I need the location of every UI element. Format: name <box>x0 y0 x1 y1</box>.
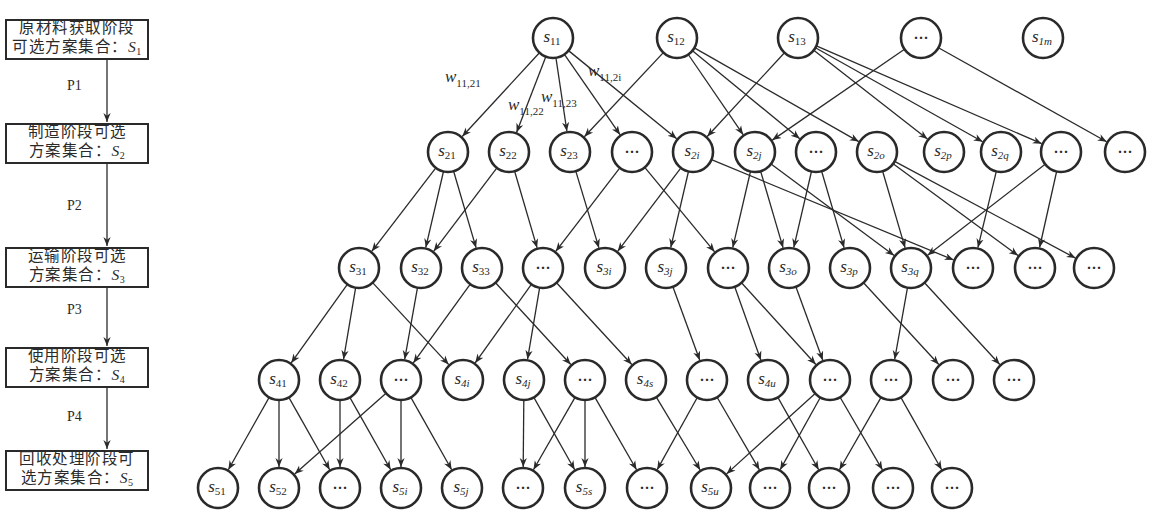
ellipsis-icon: ··· <box>1117 144 1132 160</box>
edge-L3d2-to-s4u <box>735 287 761 360</box>
edge-s12-to-s2j <box>688 55 743 135</box>
ellipsis-icon: ··· <box>913 30 928 46</box>
node-ellipsis-layer5: ··· <box>932 468 972 508</box>
node-ellipsis-layer2: ··· <box>1105 132 1145 172</box>
edge-L3d1-to-s4s <box>557 283 632 365</box>
node-ellipsis-layer4: ··· <box>871 360 911 400</box>
edge-s21-to-s32 <box>426 171 444 247</box>
edge-s3q-to-L4d5 <box>895 288 908 360</box>
ellipsis-icon: ··· <box>762 480 777 496</box>
edge-s11-to-s21 <box>462 53 539 137</box>
node-ellipsis-layer2: ··· <box>612 132 652 172</box>
node-s13: s13 <box>778 18 818 58</box>
node-ellipsis-layer4: ··· <box>381 360 421 400</box>
node-ellipsis-layer5: ··· <box>750 468 790 508</box>
edge-s3q-to-L4d7 <box>925 283 1000 365</box>
edge-L3d1-to-s4i <box>475 284 531 363</box>
edge-s2i-to-s3j <box>671 171 689 247</box>
ellipsis-icon: ··· <box>332 480 347 496</box>
ellipsis-icon: ··· <box>822 372 837 388</box>
ellipsis-icon: ··· <box>515 480 530 496</box>
node-s11: s11 <box>533 18 573 58</box>
edge-L2d1-to-L3d1 <box>556 168 620 251</box>
edge-s13-to-L2d3 <box>816 46 1041 144</box>
node-s42: s42 <box>320 360 360 400</box>
node-ellipsis-layer4: ··· <box>565 360 605 400</box>
node-s5i: s5i <box>381 468 421 508</box>
node-s3p: s3p <box>830 248 870 288</box>
ellipsis-icon: ··· <box>535 260 550 276</box>
ellipsis-icon: ··· <box>393 372 408 388</box>
edge-L4d5-to-L5d7 <box>901 397 942 469</box>
node-s22: s22 <box>489 132 529 172</box>
ellipsis-icon: ··· <box>808 144 823 160</box>
edge-L3d1-to-s4j <box>528 288 540 360</box>
edge-s2j-to-s3o <box>761 171 783 248</box>
edge-s41-to-L5d1 <box>289 397 330 469</box>
edge-weight-labels: w11,21w11,22w11,23w11,2i <box>443 61 634 118</box>
node-ellipsis-layer5: ··· <box>320 468 360 508</box>
edge-L4d1-to-s5j <box>411 397 452 469</box>
edge-s2o-to-s3q <box>883 171 905 248</box>
edge-s2i-to-s3i <box>618 168 681 251</box>
edge-L2d3-to-L3d4 <box>1040 172 1057 248</box>
edge-L4d4-to-L5d4 <box>780 397 820 469</box>
node-ellipsis-layer5: ··· <box>503 468 543 508</box>
node-s2p: s2p <box>924 132 964 172</box>
node-s5j: s5j <box>442 468 482 508</box>
node-ellipsis-layer5: ··· <box>627 468 667 508</box>
node-s33: s33 <box>462 248 502 288</box>
edge-s22-to-s32 <box>434 168 497 251</box>
node-s3q: s3q <box>891 248 931 288</box>
node-s2o: s2o <box>857 132 897 172</box>
edge-s2o-to-L3d4 <box>893 164 1018 256</box>
node-ellipsis-layer2: ··· <box>796 132 836 172</box>
edge-L4d4-to-L5d6 <box>840 397 882 470</box>
edge-s22-to-L3d1 <box>515 171 537 248</box>
ellipsis-icon: ··· <box>699 372 714 388</box>
node-s4i: s4i <box>443 360 483 400</box>
node-s21: s21 <box>428 132 468 172</box>
ellipsis-icon: ··· <box>1006 372 1021 388</box>
edge-L4d3-to-L5d4 <box>717 397 759 470</box>
edge-s33-to-L4d1 <box>413 284 470 363</box>
node-s52: s52 <box>259 468 299 508</box>
node-s3i: s3i <box>585 248 625 288</box>
node-s4j: s4j <box>504 360 544 400</box>
ellipsis-icon: ··· <box>720 260 735 276</box>
node-ellipsis-layer1: ··· <box>901 18 941 58</box>
node-s3o: s3o <box>769 248 809 288</box>
ellipsis-icon: ··· <box>1027 260 1042 276</box>
node-ellipsis-layer3: ··· <box>1074 248 1114 288</box>
node-ellipsis-layer4: ··· <box>810 360 850 400</box>
ellipsis-icon: ··· <box>965 260 980 276</box>
edge-s3j-to-L4d3 <box>673 287 700 360</box>
node-s2q: s2q <box>981 132 1021 172</box>
node-s41: s41 <box>259 360 299 400</box>
node-s32: s32 <box>401 248 441 288</box>
node-ellipsis-layer3: ··· <box>1015 248 1055 288</box>
edge-s4j-to-L5d2 <box>523 400 524 467</box>
edge-s21-to-s31 <box>372 168 436 251</box>
edge-L4d5-to-L5d5 <box>839 397 881 469</box>
edge-s31-to-s41 <box>291 284 347 363</box>
edge-s3o-to-L4d4 <box>796 287 823 360</box>
node-s5u: s5u <box>691 468 731 508</box>
edge-L1d1-to-s2j <box>772 49 904 140</box>
ellipsis-icon: ··· <box>577 372 592 388</box>
node-s2i: s2i <box>673 132 713 172</box>
node-s3j: s3j <box>646 248 686 288</box>
node-ellipsis-layer2: ··· <box>1041 132 1081 172</box>
edge-s42-to-s5i <box>350 397 391 469</box>
ellipsis-icon: ··· <box>944 480 959 496</box>
node-ellipsis-layer3: ··· <box>953 248 993 288</box>
node-ellipsis-layer4: ··· <box>933 360 973 400</box>
ellipsis-icon: ··· <box>821 480 836 496</box>
multi-stage-scheme-network: 原材料获取阶段 可选方案集合：S1 制造阶段可选 方案集合：S2 运输阶段可选 … <box>0 0 1152 527</box>
edge-s41-to-s51 <box>228 397 269 469</box>
edge-s13-to-s2q <box>815 48 982 142</box>
edge-s32-to-L4d1 <box>405 288 418 360</box>
weight-label-w11-21: w11,21 <box>443 67 491 90</box>
edge-L4d4-to-s5u <box>727 393 816 473</box>
ellipsis-icon: ··· <box>1053 144 1068 160</box>
